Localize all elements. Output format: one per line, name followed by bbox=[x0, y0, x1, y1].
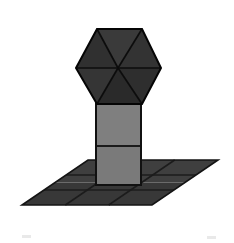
scene-canvas bbox=[0, 0, 234, 243]
column-lower-face bbox=[96, 146, 141, 185]
hexagon-cap-group bbox=[76, 29, 161, 104]
bottom-right-speck bbox=[207, 236, 216, 239]
column-group bbox=[96, 103, 141, 185]
column-upper-face bbox=[96, 103, 141, 146]
bottom-left-speck bbox=[22, 235, 31, 238]
scene-vector-graphic bbox=[0, 0, 234, 243]
